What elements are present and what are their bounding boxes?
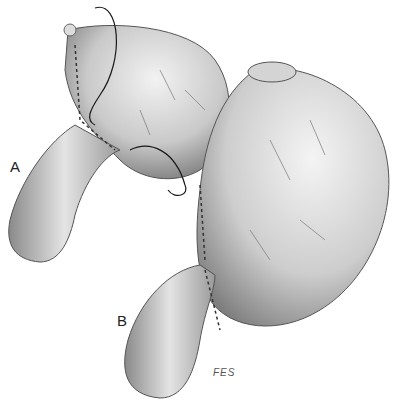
stomach-a [9,7,229,262]
label-b: B [117,312,127,329]
label-a: A [10,158,20,175]
illustration-canvas [0,0,403,400]
artist-signature: FES [213,367,235,378]
